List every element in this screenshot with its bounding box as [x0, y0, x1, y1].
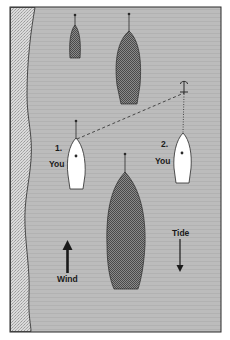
boat1-number-label: 1.	[55, 143, 62, 153]
tide-label: Tide	[172, 228, 190, 238]
boat2-number-label: 2.	[161, 139, 168, 149]
wind-label: Wind	[57, 274, 78, 284]
boat2-name-label: You	[155, 156, 170, 166]
mooring-diagram: 1. You 2. You Wind Tide	[0, 0, 230, 340]
boat1-name-label: You	[49, 159, 64, 169]
